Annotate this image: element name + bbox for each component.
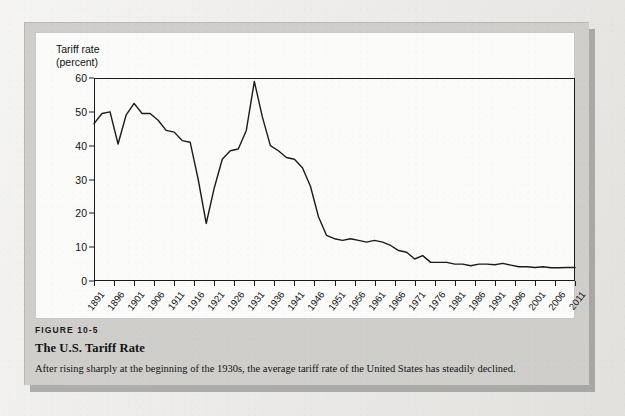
x-tick-mark	[154, 281, 155, 286]
x-tick-label: 1961	[366, 289, 388, 312]
x-tick-label: 2001	[526, 289, 548, 312]
x-tick-label: 1896	[105, 289, 127, 312]
x-tick-label: 1986	[466, 289, 488, 312]
x-tick-mark	[94, 281, 95, 286]
y-tick-label: 20	[65, 207, 87, 219]
x-tick-label: 1971	[406, 289, 428, 312]
x-tick-label: 1991	[486, 289, 508, 312]
x-tick-label: 1911	[166, 289, 187, 312]
chart-card: Tariff rate (percent) 0102030405060 1891…	[35, 32, 575, 319]
x-tick-mark	[555, 281, 556, 286]
x-tick-mark	[575, 281, 576, 286]
x-tick-label: 1996	[506, 289, 528, 312]
x-tick-label: 1936	[265, 289, 287, 312]
tariff-rate-line-series	[94, 78, 575, 281]
x-tick-mark	[314, 281, 315, 286]
x-tick-label: 1976	[426, 289, 448, 312]
page-background: Tariff rate (percent) 0102030405060 1891…	[0, 0, 625, 416]
figure-caption: FIGURE 10-5 The U.S. Tariff Rate After r…	[35, 325, 573, 375]
x-tick-mark	[435, 281, 436, 286]
x-tick-mark	[515, 281, 516, 286]
x-tick-mark	[355, 281, 356, 286]
x-tick-label: 1941	[285, 289, 307, 312]
x-tick-mark	[455, 281, 456, 286]
figure-number: FIGURE 10-5	[35, 325, 573, 335]
y-tick-label: 40	[65, 140, 87, 152]
x-tick-label: 1901	[125, 289, 147, 312]
x-tick-label: 1906	[145, 289, 167, 312]
x-tick-mark	[495, 281, 496, 286]
x-tick-mark	[294, 281, 295, 286]
x-tick-mark	[335, 281, 336, 286]
x-tick-mark	[375, 281, 376, 286]
y-axis-title: Tariff rate (percent)	[56, 43, 100, 69]
x-tick-label: 2011	[566, 289, 587, 312]
x-tick-mark	[395, 281, 396, 286]
y-tick-label: 10	[65, 241, 87, 253]
x-tick-label: 2006	[546, 289, 568, 312]
x-tick-mark	[174, 281, 175, 286]
x-tick-label: 1981	[446, 289, 468, 312]
figure-title: The U.S. Tariff Rate	[35, 341, 573, 356]
x-tick-mark	[415, 281, 416, 286]
y-tick-label: 0	[65, 275, 87, 287]
x-tick-label: 1946	[305, 289, 327, 312]
x-tick-mark	[535, 281, 536, 286]
x-tick-mark	[274, 281, 275, 286]
x-tick-label: 1956	[346, 289, 368, 312]
x-tick-label: 1891	[85, 289, 107, 312]
x-tick-mark	[134, 281, 135, 286]
x-tick-label: 1916	[185, 289, 207, 312]
plot-area: 0102030405060 18911896190119061911191619…	[94, 78, 575, 281]
x-tick-label: 1926	[225, 289, 247, 312]
figure-panel: Tariff rate (percent) 0102030405060 1891…	[24, 22, 589, 385]
x-tick-label: 1951	[325, 289, 347, 312]
x-tick-mark	[214, 281, 215, 286]
y-tick-label: 30	[65, 174, 87, 186]
y-tick-label: 50	[65, 106, 87, 118]
x-tick-mark	[475, 281, 476, 286]
y-tick-label: 60	[65, 72, 87, 84]
figure-description: After rising sharply at the beginning of…	[35, 362, 573, 375]
x-tick-label: 1966	[386, 289, 408, 312]
x-tick-label: 1931	[245, 289, 267, 312]
x-tick-label: 1921	[205, 289, 227, 312]
x-tick-mark	[234, 281, 235, 286]
series-line	[94, 81, 575, 267]
x-tick-mark	[254, 281, 255, 286]
x-tick-mark	[194, 281, 195, 286]
x-tick-mark	[114, 281, 115, 286]
